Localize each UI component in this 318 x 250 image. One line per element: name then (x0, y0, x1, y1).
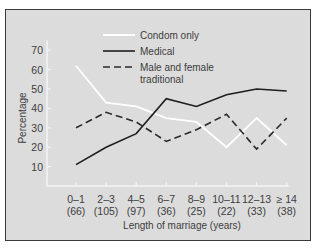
x-tick-count: (38) (277, 205, 296, 217)
x-axis-ticks: 0–1(66)2–3(105)4–5(97)6–7(36)8–9(25)10–1… (67, 182, 297, 217)
x-tick-count: (22) (217, 205, 236, 217)
y-tick-label: 30 (31, 122, 43, 134)
legend: Condom only Medical Male and female trad… (103, 30, 214, 85)
x-tick-label: 4–5 (127, 193, 145, 205)
x-tick-label: 10–11 (212, 193, 241, 205)
line-chart: 10203040506070 0–1(66)2–3(105)4–5(97)6–7… (0, 0, 318, 250)
y-tick-label: 50 (31, 83, 43, 95)
y-tick-label: 10 (31, 161, 43, 173)
x-tick-count: (105) (94, 205, 119, 217)
y-axis-title: Percentage (17, 92, 28, 144)
x-tick-label: 2–3 (97, 193, 115, 205)
x-tick-count: (36) (157, 205, 176, 217)
x-tick-label: ≥ 14 (277, 193, 298, 205)
legend-label-traditional-line2: traditional (140, 74, 183, 85)
series-line-medical (76, 89, 287, 165)
x-tick-count: (33) (247, 205, 266, 217)
x-tick-count: (25) (187, 205, 206, 217)
y-tick-label: 20 (31, 141, 43, 153)
series-line-male-and-female-traditional (76, 112, 287, 149)
x-axis-title: Length of marriage (years) (123, 220, 241, 231)
y-tick-label: 70 (31, 44, 43, 56)
y-tick-label: 40 (31, 102, 43, 114)
x-tick-count: (66) (67, 205, 86, 217)
legend-label-condom: Condom only (140, 30, 199, 41)
x-tick-label: 8–9 (188, 193, 206, 205)
x-tick-count: (97) (127, 205, 146, 217)
legend-label-traditional-line1: Male and female (140, 62, 214, 73)
y-tick-label: 60 (31, 64, 43, 76)
y-axis-ticks: 10203040506070 (31, 44, 51, 172)
legend-label-medical: Medical (140, 46, 174, 57)
x-tick-label: 0–1 (67, 193, 85, 205)
x-tick-label: 12–13 (242, 193, 271, 205)
x-tick-label: 6–7 (158, 193, 176, 205)
